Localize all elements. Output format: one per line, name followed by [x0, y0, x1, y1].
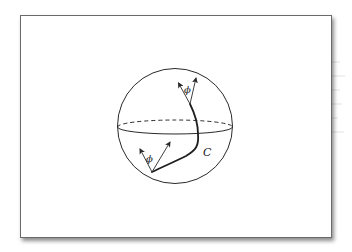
curve-c	[152, 104, 198, 172]
curve-label: C	[203, 146, 212, 159]
top-angle-label: ϕ	[184, 84, 191, 95]
top-arrow-right	[190, 78, 196, 104]
equator-back-dashed	[118, 120, 233, 127]
top-tangent-frame: ϕ	[179, 78, 197, 104]
sphere-outline	[118, 69, 233, 184]
bottom-angle-label: ϕ	[146, 153, 153, 164]
equator-front-solid	[118, 127, 233, 134]
bottom-tangent-frame: ϕ	[140, 142, 170, 172]
sphere-diagram: ϕ ϕ C	[0, 0, 352, 252]
